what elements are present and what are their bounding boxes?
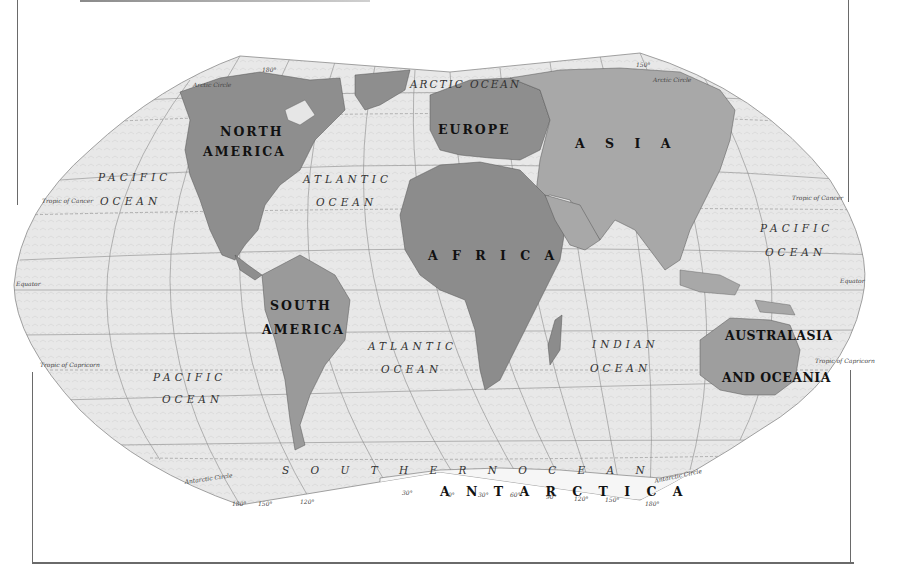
label-indian-line2: OCEAN xyxy=(590,362,651,374)
label-europe: EUROPE xyxy=(438,122,511,137)
label-arctic-circle-west: Arctic Circle xyxy=(192,81,232,88)
label-asia: A S I A xyxy=(574,136,678,151)
label-tropic-of-cancer-west: Tropic of Cancer xyxy=(42,197,94,205)
svg-text:150°: 150° xyxy=(258,500,272,507)
svg-text:180°: 180° xyxy=(645,500,659,507)
svg-text:60°: 60° xyxy=(510,491,521,498)
label-tropic-of-capricorn-east: Tropic of Capricorn xyxy=(815,357,875,365)
land-new-zealand xyxy=(828,385,842,415)
svg-text:0°: 0° xyxy=(448,491,455,498)
label-pacific-nw-line1: PACIFIC xyxy=(97,171,171,183)
label-pacific-ne-line1: PACIFIC xyxy=(759,222,833,234)
label-atlantic-n-line2: OCEAN xyxy=(316,196,377,208)
label-arctic-circle-east: Arctic Circle xyxy=(652,76,692,83)
label-arctic-ocean: ARCTIC OCEAN xyxy=(409,78,521,90)
label-south-america-line2: AMERICA xyxy=(261,322,345,337)
land-europe xyxy=(430,78,550,160)
label-australasia-line1: AUSTRALASIA xyxy=(724,328,833,343)
label-tropic-of-capricorn: Tropic of Capricorn xyxy=(40,361,100,369)
world-map[interactable]: NORTH AMERICA SOUTH AMERICA EUROPE A S I… xyxy=(0,0,901,579)
label-southern-ocean: S O U T H E R N O C E A N xyxy=(282,464,654,476)
svg-text:150°: 150° xyxy=(636,61,650,68)
svg-text:120°: 120° xyxy=(574,495,588,502)
label-equator-west: Equator xyxy=(15,280,42,288)
label-equator-east: Equator xyxy=(839,277,866,285)
label-atlantic-s-line2: OCEAN xyxy=(381,363,442,375)
label-antarctica: A N T A R C T I C A xyxy=(439,484,688,499)
svg-text:180°: 180° xyxy=(232,500,246,507)
svg-text:30°: 30° xyxy=(402,489,413,496)
label-pacific-sw-line1: PACIFIC xyxy=(152,371,226,383)
svg-text:90°: 90° xyxy=(546,493,557,500)
label-north-america-line2: AMERICA xyxy=(202,144,286,159)
label-pacific-nw-line2: OCEAN xyxy=(100,195,161,207)
label-tropic-of-cancer-east: Tropic of Cancer xyxy=(792,194,844,202)
label-atlantic-n-line1: ATLANTIC xyxy=(302,173,392,185)
label-pacific-sw-line2: OCEAN xyxy=(162,393,223,405)
svg-text:30°: 30° xyxy=(478,491,489,498)
label-africa: A F R I C A xyxy=(427,248,559,263)
label-north-america-line1: NORTH xyxy=(220,124,284,139)
svg-text:180°: 180° xyxy=(262,66,276,73)
label-south-america-line1: SOUTH xyxy=(270,298,332,313)
svg-text:120°: 120° xyxy=(300,498,314,505)
label-australasia-line2: AND OCEANIA xyxy=(721,370,831,385)
label-indian-line1: INDIAN xyxy=(591,338,659,350)
label-atlantic-s-line1: ATLANTIC xyxy=(367,340,457,352)
label-pacific-ne-line2: OCEAN xyxy=(765,246,826,258)
svg-text:150°: 150° xyxy=(605,496,619,503)
